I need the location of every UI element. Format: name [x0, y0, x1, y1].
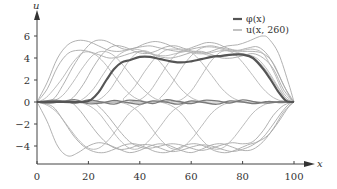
y-tick-label: −2 [15, 119, 30, 130]
u-curve-line [119, 102, 242, 150]
x-tick-label: 40 [133, 171, 146, 182]
x-tick-label: 80 [236, 171, 249, 182]
x-axis-label: x [317, 158, 323, 169]
chart: u −4−20246 x 020406080100 φ(x) u(x, 260) [0, 0, 337, 189]
legend-item-phi: φ(x) [233, 13, 265, 24]
u-curve-line [160, 102, 283, 150]
x-tick-label: 20 [82, 171, 95, 182]
y-tick-label: 2 [24, 75, 30, 86]
y-ticks: −4−20246 [15, 31, 37, 152]
y-axis: u −4−20246 [15, 0, 40, 164]
x-tick-label: 0 [34, 171, 40, 182]
u-curve-line [78, 102, 201, 150]
legend-label-u: u(x, 260) [246, 24, 289, 35]
y-axis-arrow-icon [34, 10, 40, 20]
u-curve-line [37, 47, 294, 102]
x-tick-label: 100 [284, 171, 303, 182]
y-axis-label: u [33, 0, 39, 11]
x-tick-label: 60 [185, 171, 198, 182]
legend: φ(x) u(x, 260) [233, 13, 289, 35]
y-tick-label: 4 [24, 53, 30, 64]
u-curves [37, 36, 294, 156]
y-tick-label: 0 [24, 97, 30, 108]
y-tick-label: −4 [15, 141, 30, 152]
legend-item-u: u(x, 260) [233, 24, 289, 35]
x-axis-arrow-icon [304, 161, 315, 167]
legend-label-phi: φ(x) [246, 13, 265, 24]
x-axis: x 020406080100 [34, 158, 323, 182]
y-tick-label: 6 [24, 31, 30, 42]
